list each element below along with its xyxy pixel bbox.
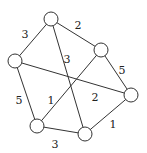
node-E	[30, 119, 44, 133]
node-B	[94, 43, 108, 57]
edge-weight-label: 5	[16, 94, 23, 107]
node-F	[78, 127, 92, 141]
node-A	[44, 12, 58, 26]
edges-layer	[15, 19, 131, 134]
node-D	[124, 88, 138, 102]
edge-weight-label: 1	[110, 118, 117, 131]
edge-weight-label: 1	[48, 94, 55, 107]
edge-weight-label: 2	[92, 91, 99, 104]
weighted-graph-diagram: 233512531	[0, 0, 147, 153]
edge-C-D	[15, 61, 131, 95]
edge-weight-label: 3	[22, 28, 29, 41]
edge-A-C	[15, 19, 51, 61]
edge-weight-label: 5	[119, 64, 126, 77]
edge-weight-label: 3	[52, 138, 59, 151]
edge-weight-label: 2	[75, 19, 82, 32]
edge-weight-label: 3	[64, 53, 71, 66]
node-C	[8, 54, 22, 68]
edge-B-D	[101, 50, 131, 95]
